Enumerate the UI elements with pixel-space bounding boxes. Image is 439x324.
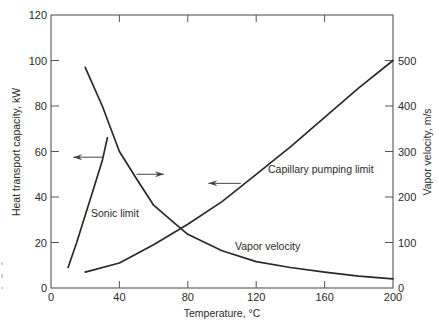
x-tick-label: 0: [48, 291, 54, 303]
y-tick-label: 40: [35, 191, 47, 203]
y2-tick-label: 300: [398, 146, 416, 158]
y-tick-label: 80: [35, 100, 47, 112]
y-tick-label: 20: [35, 237, 47, 249]
capillary-limit-label: Capillary pumping limit: [268, 163, 374, 175]
axis-indicator-arrows: [73, 154, 241, 186]
x-tick-label: 120: [247, 291, 265, 303]
heat-pipe-limits-chart: 0408012016020002040608010012001002003004…: [0, 0, 439, 324]
vapor-velocity-label: Vapor velocity: [235, 240, 301, 252]
scan-artifact-marks: [1, 262, 3, 289]
plot-border: [51, 15, 393, 288]
y-tick-label: 120: [29, 9, 47, 21]
sonic-arrow-left-icon: [73, 154, 104, 160]
y2-tick-label: 100: [398, 237, 416, 249]
plot-frame: [51, 15, 393, 288]
y2-axis-title: Vapor velocity, m/s: [421, 108, 433, 195]
y-axis-title: Heat transport capacity, kW: [10, 88, 22, 216]
y2-tick-label: 400: [398, 100, 416, 112]
x-tick-label: 40: [113, 291, 125, 303]
y-tick-label: 100: [29, 55, 47, 67]
x-tick-label: 80: [182, 291, 194, 303]
y2-tick-label: 0: [398, 282, 404, 294]
capillary-arrow-left-icon: [208, 180, 240, 186]
y2-tick-label: 500: [398, 55, 416, 67]
y-tick-label: 0: [41, 282, 47, 294]
y-tick-label: 60: [35, 146, 47, 158]
y2-tick-label: 200: [398, 191, 416, 203]
x-tick-label: 160: [315, 291, 333, 303]
x-axis-title: Temperature, °C: [184, 307, 261, 319]
axis-ticks: 0408012016020002040608010012001002003004…: [29, 9, 417, 303]
sonic-limit-label: Sonic limit: [91, 207, 139, 219]
vapor-arrow-right-icon: [137, 171, 164, 177]
